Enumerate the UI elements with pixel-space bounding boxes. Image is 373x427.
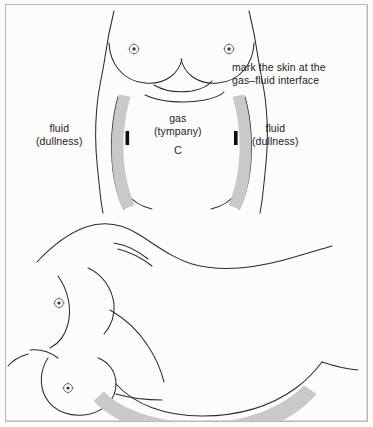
epigastric-contour xyxy=(154,81,212,92)
skin-mark-tick-left xyxy=(126,131,130,145)
lateral-body-illustration xyxy=(6,218,367,421)
chest-wall-left-edge xyxy=(8,354,28,366)
torso-outline-right xyxy=(249,11,267,213)
panel-supine-frontal: mark the skin at thegas–fluid interface … xyxy=(6,5,367,218)
torso-outline-left xyxy=(96,11,114,213)
breast-fold-left xyxy=(109,43,182,83)
nipple-lower xyxy=(62,382,74,394)
flank-contour xyxy=(110,310,164,382)
breast-lower-upper-fold xyxy=(30,350,58,358)
label-fluid-right-line2: (dullness) xyxy=(252,135,299,147)
nipple-left xyxy=(128,43,140,55)
umbilicus-mark-supine: C xyxy=(174,144,182,157)
back-shoulder-contour xyxy=(37,224,332,268)
label-mark-skin-line2: gas–fluid interface xyxy=(232,74,319,86)
skin-mark-tick-right xyxy=(234,131,238,145)
label-fluid-dullness-left: fluid(dullness) xyxy=(36,122,83,147)
nipple-upper xyxy=(53,297,65,309)
breast-upper-outline xyxy=(50,276,70,348)
nipple-right xyxy=(223,43,235,55)
hip-thigh-contour xyxy=(322,362,358,370)
panel-side-lying: gas tympany extendslateral to yourorigin… xyxy=(6,218,367,421)
abdominal-crease xyxy=(116,394,162,400)
label-mark-skin-line1: mark the skin at the xyxy=(232,61,326,73)
label-gas-line2: (tympany) xyxy=(154,125,202,137)
label-fluid-left-line2: (dullness) xyxy=(36,135,83,147)
costal-margin-contour xyxy=(145,92,224,102)
label-gas-line1: gas xyxy=(169,112,186,124)
label-fluid-left-line1: fluid xyxy=(49,122,69,134)
label-fluid-right-line1: fluid xyxy=(265,122,285,134)
axilla-contour xyxy=(88,268,114,334)
label-fluid-dullness-right: fluid(dullness) xyxy=(252,122,299,147)
figure-root: mark the skin at thegas–fluid interface … xyxy=(0,0,373,427)
dullness-band-left xyxy=(112,95,134,209)
dullness-band-right xyxy=(229,95,251,209)
label-mark-skin: mark the skin at thegas–fluid interface xyxy=(232,61,326,86)
arm-crease xyxy=(114,243,148,259)
label-gas-tympany: gas(tympany) xyxy=(154,112,202,137)
